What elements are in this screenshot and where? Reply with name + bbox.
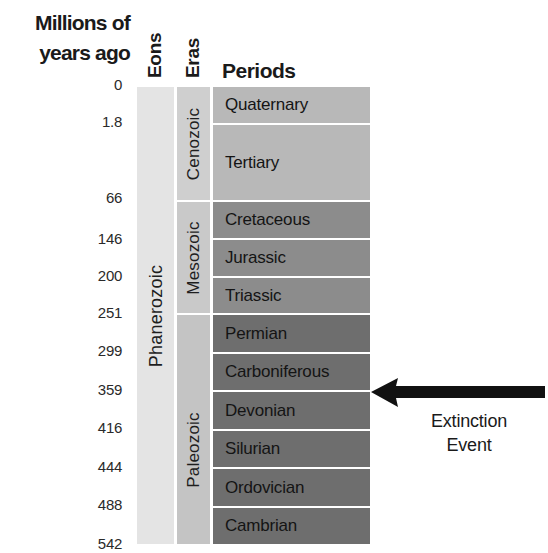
tick-label: 66 (106, 189, 122, 207)
extinction-label-line1: Extinction (400, 409, 538, 433)
time-axis-title-line2: years ago (39, 40, 130, 65)
period-devonian: Devonian (213, 392, 370, 429)
era-cenozoic: Cenozoic (177, 87, 210, 200)
era-label: Mesozoic (184, 221, 204, 294)
period-silurian: Silurian (213, 431, 370, 467)
tick-label: 359 (98, 381, 122, 399)
tick-label: 488 (98, 496, 122, 514)
extinction-event-label: Extinction Event (400, 409, 538, 457)
left-arrow-icon (371, 377, 546, 409)
periods-header: Periods (222, 59, 296, 83)
tick-label: 146 (98, 230, 122, 248)
period-tertiary: Tertiary (213, 125, 370, 200)
period-cambrian: Cambrian (213, 508, 370, 544)
period-carboniferous: Carboniferous (213, 354, 370, 390)
period-jurassic: Jurassic (213, 240, 370, 276)
tick-label: 416 (98, 419, 122, 437)
period-ordovician: Ordovician (213, 469, 370, 506)
eons-header: Eons (144, 33, 166, 78)
time-axis-title-line1: Millions of (35, 10, 130, 35)
eon-phanerozoic: Phanerozoic (137, 87, 174, 544)
tick-label: 251 (98, 304, 122, 322)
era-label: Paleozoic (184, 412, 204, 488)
extinction-label-line2: Event (400, 433, 538, 457)
tick-label: 299 (98, 342, 122, 360)
tick-label: 0 (114, 76, 122, 94)
era-mesozoic: Mesozoic (177, 202, 210, 313)
tick-label: 444 (98, 458, 122, 476)
era-label: Cenozoic (184, 107, 204, 179)
era-paleozoic: Paleozoic (177, 315, 210, 544)
period-permian: Permian (213, 315, 370, 352)
eon-label: Phanerozoic (145, 264, 166, 366)
tick-label: 1.8 (102, 113, 122, 131)
period-quaternary: Quaternary (213, 87, 370, 123)
tick-label: 542 (98, 535, 122, 553)
eras-header: Eras (182, 38, 204, 78)
period-cretaceous: Cretaceous (213, 202, 370, 238)
period-triassic: Triassic (213, 278, 370, 313)
tick-label: 200 (98, 267, 122, 285)
